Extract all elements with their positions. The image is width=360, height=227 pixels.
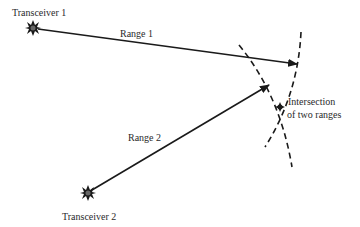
transceiver-1-label: Transceiver 1 bbox=[12, 7, 66, 18]
transceiver-2: Transceiver 2 bbox=[62, 185, 116, 222]
intersection-label-line2: of two ranges bbox=[287, 109, 342, 120]
range-2-line bbox=[92, 85, 269, 190]
range-2-arc bbox=[239, 45, 292, 167]
star-burst-icon bbox=[80, 185, 96, 201]
intersection-label-line1: Intersection bbox=[288, 96, 335, 107]
range-1-arc bbox=[265, 32, 301, 147]
star-burst-icon bbox=[25, 20, 41, 36]
range-2-label: Range 2 bbox=[128, 132, 161, 143]
range-1-label: Range 1 bbox=[120, 28, 153, 39]
range-intersection-diagram: Transceiver 1 Range 1 Transceiver 2 Rang… bbox=[0, 0, 360, 227]
range-1-line bbox=[38, 29, 297, 64]
transceiver-2-label: Transceiver 2 bbox=[62, 211, 116, 222]
